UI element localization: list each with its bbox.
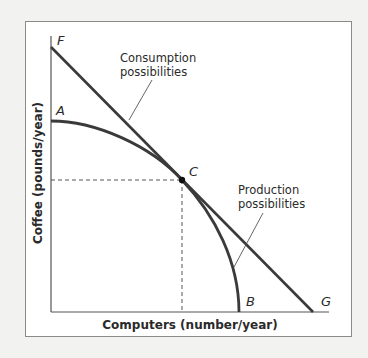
label-a: A (55, 103, 65, 118)
point-c-marker (179, 177, 185, 183)
consumption-label-line2: possibilities (120, 65, 187, 79)
label-g: G (321, 294, 331, 309)
label-c: C (189, 164, 199, 179)
production-leader-line (234, 213, 263, 267)
consumption-label-line1: Consumption (120, 51, 196, 65)
production-label-line2: possibilities (238, 197, 305, 211)
production-possibilities-curve (51, 121, 239, 312)
y-axis-title: Coffee (pounds/year) (31, 102, 45, 244)
x-axis-title: Computers (number/year) (102, 318, 277, 332)
production-label-line1: Production (238, 183, 299, 197)
consumption-leader-line (129, 80, 152, 120)
ppf-diagram: F A C B G Consumption possibilities Prod… (0, 0, 368, 358)
label-f: F (57, 33, 65, 48)
label-b: B (246, 294, 255, 309)
